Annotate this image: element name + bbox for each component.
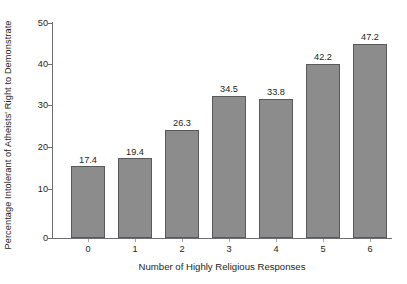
bar-group-5: 42.2 bbox=[306, 22, 340, 238]
bar-value-label-5: 42.2 bbox=[300, 52, 346, 63]
bar-group-6: 47.2 bbox=[353, 22, 387, 238]
bar-group-4: 33.8 bbox=[259, 22, 293, 238]
bar-rect-4[interactable] bbox=[259, 99, 293, 238]
x-tick-label-6: 6 bbox=[355, 243, 385, 255]
y-tick-label-20: 20 bbox=[26, 142, 48, 152]
x-axis-line bbox=[52, 238, 392, 239]
bar-rect-6[interactable] bbox=[353, 44, 387, 238]
y-tick-label-0: 0 bbox=[26, 233, 48, 243]
bar-rect-0[interactable] bbox=[71, 166, 105, 238]
bar-value-label-1: 19.4 bbox=[112, 147, 158, 158]
y-axis-title: Percentage Intolerant of Atheists' Right… bbox=[0, 15, 16, 255]
bar-value-label-3: 34.5 bbox=[206, 84, 252, 95]
bar-group-2: 26.3 bbox=[165, 22, 199, 238]
bar-chart-figure: Percentage Intolerant of Atheists' Right… bbox=[0, 0, 407, 284]
x-tick-mark-6 bbox=[370, 239, 371, 242]
x-tick-label-1: 1 bbox=[120, 243, 150, 255]
bar-value-label-2: 26.3 bbox=[159, 118, 205, 129]
plot-area: 17.4 19.4 26.3 34.5 33.8 42.2 47.2 bbox=[53, 22, 392, 238]
x-tick-mark-1 bbox=[135, 239, 136, 242]
bar-rect-1[interactable] bbox=[118, 158, 152, 238]
bar-value-label-0: 17.4 bbox=[65, 155, 111, 166]
bar-group-0: 17.4 bbox=[71, 22, 105, 238]
x-tick-mark-4 bbox=[276, 239, 277, 242]
x-tick-mark-2 bbox=[182, 239, 183, 242]
y-tick-label-10: 10 bbox=[26, 184, 48, 194]
x-tick-mark-5 bbox=[323, 239, 324, 242]
x-tick-mark-3 bbox=[229, 239, 230, 242]
bar-rect-5[interactable] bbox=[306, 64, 340, 238]
bar-value-label-6: 47.2 bbox=[347, 32, 393, 43]
bar-rect-3[interactable] bbox=[212, 96, 246, 238]
y-tick-label-40: 40 bbox=[26, 59, 48, 69]
x-tick-label-0: 0 bbox=[73, 243, 103, 255]
x-axis-title: Number of Highly Religious Responses bbox=[52, 260, 392, 273]
x-tick-label-5: 5 bbox=[308, 243, 338, 255]
bar-rect-2[interactable] bbox=[165, 130, 199, 238]
x-tick-label-4: 4 bbox=[261, 243, 291, 255]
y-tick-label-50: 50 bbox=[26, 18, 48, 28]
x-tick-label-2: 2 bbox=[167, 243, 197, 255]
bar-value-label-4: 33.8 bbox=[253, 87, 299, 98]
x-tick-label-3: 3 bbox=[214, 243, 244, 255]
bar-group-1: 19.4 bbox=[118, 22, 152, 238]
y-tick-label-30: 30 bbox=[26, 100, 48, 110]
bar-group-3: 34.5 bbox=[212, 22, 246, 238]
x-tick-mark-0 bbox=[88, 239, 89, 242]
